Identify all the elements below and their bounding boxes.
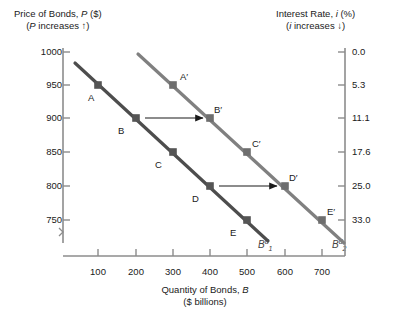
datapoint-a	[94, 81, 102, 89]
datapoint-c	[169, 148, 177, 156]
datapoint-e-prime	[318, 216, 326, 224]
left-axis-ticks	[63, 52, 70, 220]
plot-area	[0, 0, 406, 320]
datapoint-c-prime	[243, 148, 251, 156]
datapoint-e	[243, 216, 251, 224]
datapoint-d-prime	[281, 182, 289, 190]
right-axis-ticks	[338, 52, 345, 220]
x-axis-ticks	[98, 249, 322, 256]
datapoint-b	[132, 114, 140, 122]
datapoint-b-prime	[206, 114, 214, 122]
datapoint-a-prime	[169, 81, 177, 89]
datapoint-d	[206, 182, 214, 190]
left-axis-line	[59, 48, 63, 243]
bond-demand-chart: Price of Bonds, P ($) (P increases ↑) In…	[0, 0, 406, 320]
curve-b1d	[75, 63, 268, 241]
